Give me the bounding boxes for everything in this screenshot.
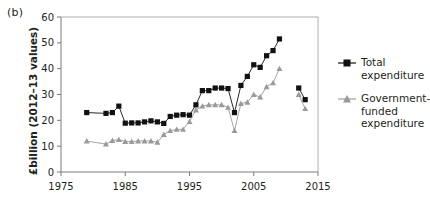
- svg-text:1975: 1975: [48, 181, 73, 192]
- svg-text:0: 0: [48, 167, 54, 178]
- svg-text:1985: 1985: [113, 181, 138, 192]
- svg-text:50: 50: [41, 37, 54, 48]
- square-marker-icon: [337, 57, 357, 69]
- svg-text:40: 40: [41, 63, 54, 74]
- svg-text:20: 20: [41, 115, 54, 126]
- svg-text:2005: 2005: [241, 181, 266, 192]
- chart-legend: Total expenditure Government- funded exp…: [337, 56, 416, 141]
- svg-text:60: 60: [41, 12, 54, 23]
- legend-item-government-funded-expenditure: Government- funded expenditure: [337, 92, 416, 130]
- legend-label-total-expenditure: Total expenditure: [361, 56, 424, 81]
- svg-text:30: 30: [41, 89, 54, 100]
- legend-label-government-funded-expenditure: Government- funded expenditure: [361, 92, 430, 130]
- axes: 010203040506019751985199520052015: [41, 12, 330, 193]
- legend-item-total-expenditure: Total expenditure: [337, 56, 416, 81]
- svg-text:2015: 2015: [305, 181, 330, 192]
- triangle-marker-icon: [337, 93, 357, 105]
- svg-text:10: 10: [41, 141, 54, 152]
- svg-text:1995: 1995: [177, 181, 202, 192]
- data-series: [84, 36, 308, 146]
